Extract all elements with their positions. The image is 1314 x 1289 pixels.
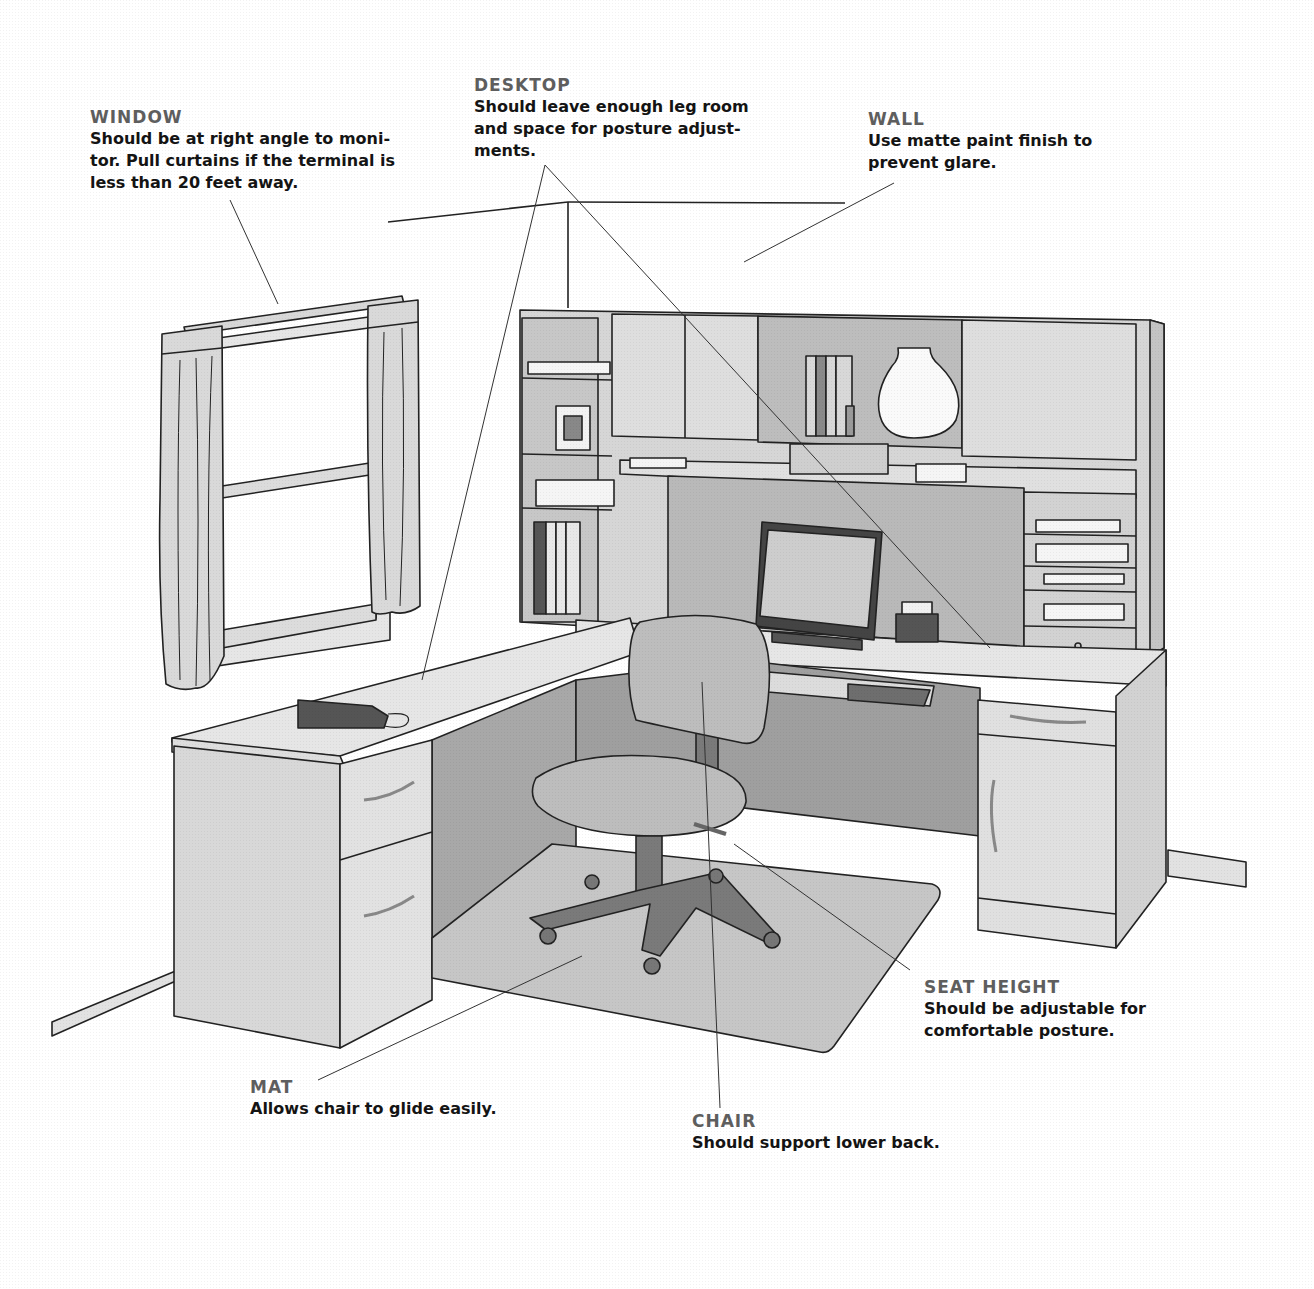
callout-desktop-text: Should leave enough leg room and space f… [474,96,784,162]
callout-mat-title: MAT [250,1076,530,1098]
right-pedestal [978,650,1166,948]
callout-chair-text: Should support lower back. [692,1132,992,1154]
callout-wall-text: Use matte paint finish to prevent glare. [868,130,1148,174]
callout-window-text: Should be at right angle to moni- tor. P… [90,128,430,194]
books-middle [806,356,854,436]
wall-corner-line [388,202,568,222]
curtain-right [368,300,421,614]
baseboard-left [52,970,178,1036]
callout-seat-height: SEAT HEIGHT Should be adjustable for com… [924,976,1184,1042]
picture-frame [556,406,590,450]
callout-mat-text: Allows chair to glide easily. [250,1098,530,1120]
callout-desktop-title: DESKTOP [474,74,784,96]
callout-chair-title: CHAIR [692,1110,992,1132]
callout-desktop: DESKTOP Should leave enough leg room and… [474,74,784,162]
callout-seat-height-title: SEAT HEIGHT [924,976,1184,998]
callout-chair: CHAIR Should support lower back. [692,1110,992,1154]
left-pedestal [174,740,432,1048]
leader-window [230,200,278,304]
books-left [534,522,580,614]
callout-wall: WALL Use matte paint finish to prevent g… [868,108,1148,174]
callout-window: WINDOW Should be at right angle to moni-… [90,106,430,194]
leader-wall [744,183,894,262]
baseboard-right [1168,850,1246,887]
rolodex [896,602,938,642]
curtain-left [160,326,224,689]
callout-window-title: WINDOW [90,106,430,128]
callout-mat: MAT Allows chair to glide easily. [250,1076,530,1120]
callout-wall-title: WALL [868,108,1148,130]
callout-seat-height-text: Should be adjustable for comfortable pos… [924,998,1184,1042]
